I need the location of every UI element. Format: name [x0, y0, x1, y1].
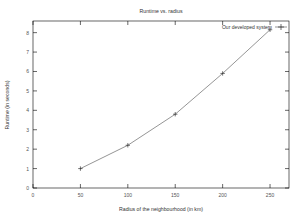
runtime-vs-radius-chart: 050100150200250 012345678 Runtime vs. ra… [0, 0, 308, 219]
y-tick-label: 8 [26, 30, 29, 36]
chart-title: Runtime vs. radius [140, 8, 183, 14]
plot-frame [33, 21, 289, 188]
y-tick-label: 4 [26, 107, 29, 113]
x-tick-label: 0 [32, 192, 35, 198]
x-axis-label: Radius of the neighbourhood (in km) [119, 206, 203, 212]
y-tick-label: 2 [26, 146, 29, 152]
x-tick-label: 150 [171, 192, 180, 198]
y-tick-label: 0 [26, 185, 29, 191]
y-axis-label: Runtime (in seconds) [4, 80, 10, 129]
y-tick-label: 7 [26, 49, 29, 55]
legend: Our developed system [222, 24, 287, 30]
x-axis-ticks: 050100150200250 [32, 21, 275, 198]
series-line [80, 30, 270, 169]
x-tick-label: 100 [124, 192, 133, 198]
x-tick-label: 250 [266, 192, 275, 198]
legend-item-label: Our developed system [222, 24, 272, 30]
data-point-marker [126, 143, 130, 147]
x-tick-label: 50 [78, 192, 84, 198]
data-point-marker [78, 166, 82, 170]
y-tick-label: 3 [26, 127, 29, 133]
y-tick-label: 5 [26, 88, 29, 94]
data-series-group [78, 28, 272, 171]
y-axis-ticks: 012345678 [26, 30, 289, 191]
legend-sample-marker [278, 24, 284, 30]
y-tick-label: 6 [26, 68, 29, 74]
y-tick-label: 1 [26, 166, 29, 172]
chart-container: 050100150200250 012345678 Runtime vs. ra… [0, 0, 308, 219]
x-tick-label: 200 [218, 192, 227, 198]
